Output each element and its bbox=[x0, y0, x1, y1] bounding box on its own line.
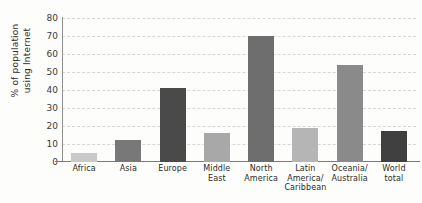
x-category-label-line: Africa bbox=[62, 164, 106, 174]
x-category-label-line: Asia bbox=[106, 164, 150, 174]
x-category-label-line: Europe bbox=[151, 164, 195, 174]
x-category-label-line: Australia bbox=[328, 174, 372, 184]
y-tick-label-60: 60 bbox=[38, 50, 58, 59]
bars-layer bbox=[62, 18, 416, 162]
y-tick-label-0: 0 bbox=[38, 158, 58, 167]
bar bbox=[71, 153, 97, 162]
bar bbox=[204, 133, 230, 162]
x-axis-category-labels: AfricaAsiaEuropeMiddleEastNorthAmericaLa… bbox=[62, 164, 416, 203]
bar bbox=[337, 65, 363, 162]
bar bbox=[381, 131, 407, 162]
bar bbox=[160, 88, 186, 162]
y-axis-title-line-2: using Internet bbox=[22, 28, 33, 94]
bar-chart: % of population using Internet 807060504… bbox=[0, 0, 422, 203]
y-tick-label-70: 70 bbox=[38, 32, 58, 41]
bar bbox=[292, 128, 318, 162]
x-category-label-line: North bbox=[239, 164, 283, 174]
x-category-label-line: Caribbean bbox=[283, 183, 327, 193]
x-category-label: Asia bbox=[106, 164, 150, 174]
y-tick-label-80: 80 bbox=[38, 14, 58, 23]
x-category-label-line: Middle bbox=[195, 164, 239, 174]
x-category-label: LatinAmerica/Caribbean bbox=[283, 164, 327, 193]
bar bbox=[248, 36, 274, 162]
x-category-label-line: America bbox=[239, 174, 283, 184]
x-category-label-line: Latin bbox=[283, 164, 327, 174]
y-axis-tick-labels: 80706050403020100 bbox=[36, 18, 58, 162]
x-category-label-line: East bbox=[195, 174, 239, 184]
bar bbox=[115, 140, 141, 162]
y-tick-label-10: 10 bbox=[38, 140, 58, 149]
x-category-label: Africa bbox=[62, 164, 106, 174]
y-tick-label-40: 40 bbox=[38, 86, 58, 95]
x-category-label: MiddleEast bbox=[195, 164, 239, 183]
y-axis-title-line-1: % of population bbox=[10, 24, 21, 98]
x-category-label: Europe bbox=[151, 164, 195, 174]
x-category-label: Oceania/Australia bbox=[328, 164, 372, 183]
y-tick-label-30: 30 bbox=[38, 104, 58, 113]
x-category-label-line: Oceania/ bbox=[328, 164, 372, 174]
x-category-label: NorthAmerica bbox=[239, 164, 283, 183]
x-category-label-line: World bbox=[372, 164, 416, 174]
x-category-label-line: total bbox=[372, 174, 416, 184]
y-tick-label-20: 20 bbox=[38, 122, 58, 131]
x-category-label: Worldtotal bbox=[372, 164, 416, 183]
y-tick-label-50: 50 bbox=[38, 68, 58, 77]
x-category-label-line: America/ bbox=[283, 174, 327, 184]
